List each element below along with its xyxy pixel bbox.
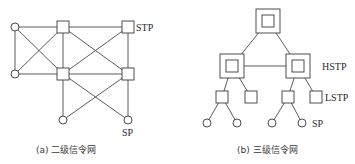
lstp-node-icon xyxy=(282,91,294,103)
stp-node-icon xyxy=(57,68,69,80)
hstp-node-icon xyxy=(220,54,244,78)
stp-node-icon xyxy=(122,68,134,80)
sp-node-icon xyxy=(298,119,306,127)
diagram-a-links xyxy=(15,27,128,120)
sp-node-icon xyxy=(59,116,67,124)
top-stp-node-icon xyxy=(256,9,280,33)
sp-label: SP xyxy=(312,118,324,129)
stp-node-icon xyxy=(122,21,134,33)
signaling-network-diagrams: STP SP (a) 二级信令网 xyxy=(0,0,355,164)
stp-node-icon xyxy=(57,21,69,33)
sp-node-icon xyxy=(11,23,19,31)
sp-label: SP xyxy=(122,127,134,138)
sp-node-icon xyxy=(124,116,132,124)
lstp-node-icon xyxy=(216,91,228,103)
sp-node-icon xyxy=(11,70,19,78)
lstp-label: LSTP xyxy=(325,92,349,103)
sp-node-icon xyxy=(233,119,241,127)
hstp-node-icon xyxy=(286,54,310,78)
caption-b: (b) 三级信令网 xyxy=(237,144,298,155)
sp-node-icon xyxy=(203,119,211,127)
sp-node-icon xyxy=(268,119,276,127)
caption-a: (a) 二级信令网 xyxy=(36,144,96,155)
stp-label: STP xyxy=(136,22,154,33)
diagram-b: HSTP LSTP SP (b) 三级信令网 xyxy=(203,9,349,155)
lstp-node-icon xyxy=(310,91,322,103)
lstp-node-icon xyxy=(245,91,257,103)
diagram-a: STP SP (a) 二级信令网 xyxy=(11,21,154,155)
hstp-label: HSTP xyxy=(322,61,347,72)
